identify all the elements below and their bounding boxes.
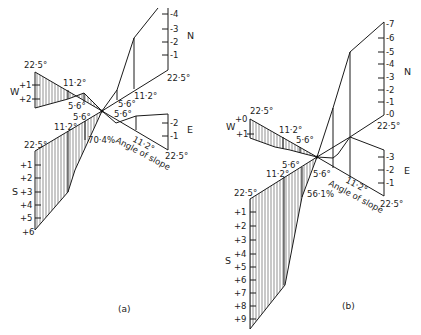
- svg-text:+3: +3: [20, 187, 33, 197]
- svg-text:22·5°: 22·5°: [165, 151, 188, 161]
- svg-text:-3: -3: [386, 72, 394, 82]
- svg-text:+6: +6: [234, 275, 247, 285]
- svg-text:+0: +0: [235, 114, 248, 124]
- svg-text:+5: +5: [234, 262, 247, 272]
- svg-text:-1: -1: [170, 50, 178, 60]
- south-axis-label: S: [12, 186, 18, 197]
- svg-text:+4: +4: [234, 249, 247, 259]
- east-axis-label: E: [187, 124, 193, 135]
- svg-text:+1: +1: [236, 129, 249, 139]
- east-axis: -3 -2 -1 E: [378, 150, 410, 196]
- south-axis-label: S: [225, 255, 231, 266]
- north-axis-label: N: [404, 66, 411, 77]
- svg-text:+7: +7: [234, 288, 247, 298]
- svg-text:+3: +3: [234, 235, 247, 245]
- svg-text:11·2°: 11·2°: [279, 125, 302, 135]
- svg-text:11·2°: 11·2°: [63, 78, 86, 88]
- center-point-b: [316, 156, 319, 159]
- center-point-a: [101, 110, 104, 113]
- svg-text:5·6°: 5·6°: [296, 135, 314, 145]
- svg-text:+8: +8: [234, 301, 247, 311]
- svg-text:5·6°: 5·6°: [118, 99, 136, 109]
- svg-text:-6: -6: [386, 33, 394, 43]
- panel-a: W +1 +2 22·5° 11·2° 5·6° S +1 +2 +3 +4 +…: [10, 8, 194, 314]
- svg-text:-0: -0: [386, 109, 394, 119]
- percent-label-a: 70·4%: [88, 135, 115, 145]
- svg-text:+2: +2: [234, 221, 247, 231]
- svg-text:5·6°: 5·6°: [282, 160, 300, 170]
- svg-text:+6: +6: [22, 227, 35, 237]
- svg-text:+2: +2: [20, 173, 33, 183]
- svg-text:-5: -5: [386, 47, 394, 57]
- slope-diagram-figure: W +1 +2 22·5° 11·2° 5·6° S +1 +2 +3 +4 +…: [0, 0, 421, 335]
- svg-text:+2: +2: [19, 94, 32, 104]
- panel-b: W +0 +1 22·5° 11·2° 5·6° S +1 +2 +3 +4: [225, 19, 411, 329]
- svg-text:5·6°: 5·6°: [313, 169, 331, 179]
- svg-text:11·2°: 11·2°: [266, 169, 289, 179]
- svg-text:-1: -1: [386, 178, 394, 188]
- caption-a: (a): [118, 304, 131, 314]
- svg-text:22·5°: 22·5°: [167, 73, 190, 83]
- svg-text:+9: +9: [234, 314, 247, 324]
- svg-text:-2: -2: [170, 37, 178, 47]
- svg-text:-3: -3: [386, 152, 394, 162]
- svg-text:5·6°: 5·6°: [114, 109, 132, 119]
- east-axis-label: E: [404, 165, 410, 176]
- svg-text:22·5°: 22·5°: [24, 60, 47, 70]
- svg-text:-1: -1: [386, 97, 394, 107]
- svg-text:5·6°: 5·6°: [73, 112, 91, 122]
- svg-text:5·6°: 5·6°: [68, 101, 86, 111]
- svg-text:-2: -2: [386, 165, 394, 175]
- svg-text:+5: +5: [20, 213, 33, 223]
- svg-text:+1: +1: [20, 160, 33, 170]
- svg-text:-4: -4: [170, 9, 178, 19]
- caption-b: (b): [342, 301, 355, 311]
- north-axis: -4 -3 -2 -1 N: [162, 8, 194, 70]
- svg-text:11·2°: 11·2°: [134, 91, 157, 101]
- svg-text:11·2°: 11·2°: [54, 122, 77, 132]
- svg-text:-3: -3: [170, 24, 178, 34]
- svg-text:+1: +1: [19, 80, 32, 90]
- svg-text:+4: +4: [20, 200, 33, 210]
- svg-text:22·5°: 22·5°: [24, 140, 47, 150]
- svg-text:-7: -7: [386, 19, 394, 29]
- percent-label-b: 56·1%: [307, 189, 334, 199]
- north-axis-label: N: [187, 30, 194, 41]
- svg-text:22·5°: 22·5°: [234, 188, 257, 198]
- svg-text:22·5°: 22·5°: [377, 121, 400, 131]
- svg-text:-4: -4: [386, 59, 394, 69]
- north-axis: -7 -6 -5 -4 -3 -2 -1 -0 N: [378, 19, 411, 119]
- svg-text:-2: -2: [170, 118, 178, 128]
- svg-text:-1: -1: [170, 131, 178, 141]
- svg-text:+1: +1: [234, 207, 247, 217]
- svg-text:-2: -2: [386, 85, 394, 95]
- svg-text:22·5°: 22·5°: [250, 106, 273, 116]
- east-axis: -2 -1 E: [162, 114, 193, 150]
